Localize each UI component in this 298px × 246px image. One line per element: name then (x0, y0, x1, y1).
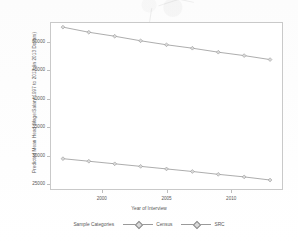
legend-key-src-icon (181, 221, 211, 227)
data-point-marker (139, 39, 143, 43)
x-tick-label: 2010 (216, 196, 246, 201)
data-point-marker (190, 170, 194, 174)
y-tick-label: 45000 (17, 67, 45, 72)
x-tick-mark (167, 190, 168, 193)
x-tick-mark (102, 190, 103, 193)
y-axis-title: Predicted Mean Head Wage/Salary 1997 to … (32, 23, 37, 183)
y-tick-label: 40000 (17, 96, 45, 101)
y-tick-label: 30000 (17, 153, 45, 158)
y-tick-label: 35000 (17, 124, 45, 129)
series-src (61, 157, 272, 182)
x-axis-title: Year of Interview (0, 206, 298, 211)
x-tick-label: 2005 (152, 196, 182, 201)
x-tick-mark (231, 190, 232, 193)
chart-page: Predicted Mean Head Wage/Salary 1997 to … (0, 0, 298, 246)
legend-key-census-icon (123, 221, 153, 227)
legend-title: Sample Categories (73, 222, 114, 227)
data-point-marker (87, 159, 91, 163)
series-census (61, 25, 272, 61)
data-point-marker (87, 30, 91, 34)
data-point-marker (216, 50, 220, 54)
y-tick-label: 25000 (17, 181, 45, 186)
legend-item-src[interactable]: SRC (181, 221, 224, 227)
plot-area (50, 22, 283, 190)
data-point-marker (165, 167, 169, 171)
y-tick-label: 50000 (17, 39, 45, 44)
data-point-marker (216, 172, 220, 176)
data-point-marker (113, 162, 117, 166)
data-point-marker (139, 164, 143, 168)
data-point-marker (113, 34, 117, 38)
legend-label-src: SRC (214, 222, 224, 227)
chart-legend: Sample Categories Census SRC (0, 221, 298, 227)
data-point-marker (61, 25, 65, 29)
data-point-marker (268, 58, 272, 62)
legend-item-census[interactable]: Census (123, 221, 172, 227)
data-point-marker (242, 175, 246, 179)
data-point-marker (190, 46, 194, 50)
data-point-marker (165, 43, 169, 47)
data-point-marker (61, 157, 65, 161)
data-point-marker (242, 54, 246, 58)
x-tick-label: 2000 (87, 196, 117, 201)
data-point-marker (268, 178, 272, 182)
legend-label-census: Census (156, 222, 172, 227)
